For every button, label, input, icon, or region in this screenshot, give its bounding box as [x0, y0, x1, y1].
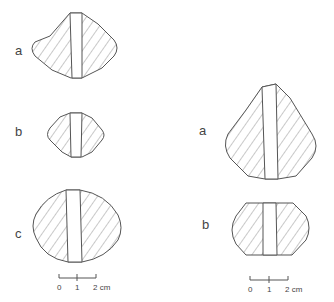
- scale-bar-right: [250, 276, 288, 283]
- label-left-b: b: [15, 124, 22, 139]
- cross-section-drawings: [0, 0, 334, 302]
- label-right-a: a: [199, 123, 206, 138]
- scale-bar-left: [59, 274, 96, 281]
- label-left-a: a: [15, 43, 22, 58]
- section-left-a: [32, 13, 117, 78]
- scale-right-tick-0: 0: [248, 285, 252, 294]
- scale-left-tick-2: 2 cm: [93, 283, 110, 292]
- section-left-b: [48, 113, 105, 157]
- section-right-a: [225, 84, 316, 179]
- label-right-b: b: [202, 217, 209, 232]
- section-right-b: [232, 203, 309, 255]
- label-left-c: c: [15, 226, 22, 241]
- scale-right-tick-2: 2 cm: [285, 285, 302, 294]
- scale-left-tick-1: 1: [75, 283, 79, 292]
- scale-left-tick-0: 0: [57, 283, 61, 292]
- scale-right-tick-1: 1: [267, 285, 271, 294]
- section-left-c: [33, 190, 121, 262]
